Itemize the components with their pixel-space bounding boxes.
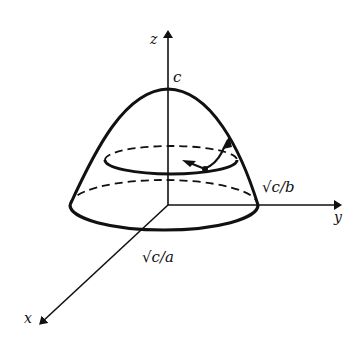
diagram-svg: z c √c/b y √c/a x	[0, 0, 360, 345]
cross-section-front	[105, 160, 237, 174]
base-ellipse-back	[70, 180, 258, 205]
z-axis-label: z	[149, 31, 158, 47]
flow-curve	[204, 140, 228, 169]
x-axis-label: x	[24, 310, 32, 326]
y-axis-label: y	[333, 209, 343, 225]
y-intercept-label: √c/b	[262, 178, 295, 196]
flow-arrow-left-shaft	[190, 163, 205, 169]
paraboloid-diagram: z c √c/b y √c/a x	[0, 0, 360, 345]
apex-label: c	[173, 68, 182, 86]
x-intercept-label: √c/a	[142, 248, 174, 266]
